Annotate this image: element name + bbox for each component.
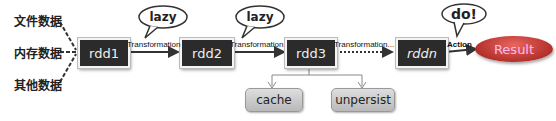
rdd3-node: rdd3 <box>285 38 337 68</box>
rdd2-node: rdd2 <box>180 38 234 68</box>
edge-label-action: Action <box>447 40 472 49</box>
arrow-rddn-result <box>445 49 476 52</box>
cache-op: cache <box>245 88 303 112</box>
edge-label-transformation-1: Transformation <box>127 40 181 49</box>
source-line-1 <box>60 22 76 50</box>
edge-label-transformation-2: Transformation <box>230 40 284 49</box>
source-line-3 <box>60 54 76 82</box>
rdd1-node: rdd1 <box>78 38 130 68</box>
bubble-do: do! <box>442 4 486 24</box>
rddn-node: rddn <box>396 38 448 68</box>
edge-label-transformation-3: Transformation... <box>334 40 394 49</box>
bubble-lazy-1: lazy <box>139 7 187 27</box>
source-other-data: 其他数据 <box>14 76 62 93</box>
source-file-data: 文件数据 <box>14 12 62 29</box>
unpersist-op: unpersist <box>331 88 395 112</box>
source-memory-data: 内存数据 <box>14 44 62 61</box>
bubble-lazy-2: lazy <box>236 7 284 27</box>
result-node: Result <box>475 36 553 62</box>
